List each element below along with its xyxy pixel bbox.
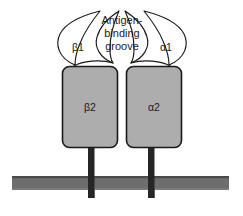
groove-label-line-3: groove: [105, 40, 139, 52]
ig-domain-boxes: [63, 67, 182, 148]
beta-chain-stem-membrane-crossing: [88, 176, 95, 198]
beta1-base-connector-path: [74, 61, 113, 66]
membrane-top-edge: [12, 176, 229, 178]
beta2-domain-label: β2: [84, 101, 96, 113]
groove-label-line-1: Antigen-: [102, 14, 143, 26]
antigen-binding-groove-label: Antigen- binding groove: [102, 14, 143, 52]
alpha1-domain-label: α1: [160, 41, 172, 53]
diagram-canvas: Antigen- binding groove β1 α1 β2 α2: [0, 0, 243, 216]
beta1-outer-loop-path: [58, 11, 100, 65]
cell-membrane: [12, 176, 229, 190]
groove-label-line-2: binding: [104, 27, 139, 39]
alpha2-domain-label: α2: [148, 101, 160, 113]
alpha-chain-stem-membrane-crossing: [148, 176, 155, 198]
membrane-bottom-edge: [12, 188, 229, 190]
alpha1-outer-loop-path: [144, 11, 186, 65]
alpha1-base-connector-path: [131, 61, 170, 66]
beta1-domain-label: β1: [72, 41, 84, 53]
mhc-class-ii-diagram: Antigen- binding groove β1 α1 β2 α2: [0, 0, 243, 216]
